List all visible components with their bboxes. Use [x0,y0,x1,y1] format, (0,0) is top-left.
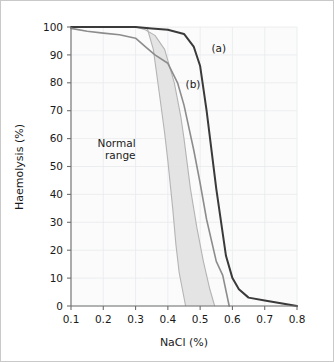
y-tick-label: 60 [50,132,63,144]
series-label-b: (b) [186,78,201,90]
y-tick-label: 40 [50,188,63,200]
y-tick-label: 20 [50,244,63,256]
y-tick-label: 0 [56,300,63,312]
x-tick-label: 0.8 [289,313,306,325]
x-tick-label: 0.4 [160,313,177,325]
y-tick-label: 50 [50,160,63,172]
y-tick-label: 10 [50,272,63,284]
y-tick-label: 80 [50,76,63,88]
x-tick-label: 0.6 [224,313,241,325]
haemolysis-osmotic-fragility-chart: 0102030405060708090100 0.10.20.30.40.50.… [1,1,334,362]
x-tick-label: 0.1 [63,313,80,325]
y-tick-label: 70 [50,104,63,116]
x-axis-tick-labels: 0.10.20.30.40.50.60.70.8 [63,313,306,325]
series-label-a: (a) [211,42,226,54]
y-axis-tick-labels: 0102030405060708090100 [43,21,63,312]
y-tick-label: 90 [50,49,63,61]
y-axis-title: Haemolysis (%) [13,124,26,210]
x-tick-label: 0.7 [256,313,273,325]
x-tick-label: 0.5 [192,313,209,325]
normal-range-label-line1: Normal [98,137,136,149]
figure-frame: 0102030405060708090100 0.10.20.30.40.50.… [0,0,334,362]
x-axis-ticks [71,306,297,310]
x-axis-title: NaCl (%) [160,336,208,349]
y-axis-ticks [67,27,71,306]
x-tick-label: 0.2 [95,313,112,325]
x-tick-label: 0.3 [127,313,144,325]
y-tick-label: 100 [43,21,63,33]
normal-range-label-line2: range [105,149,136,161]
y-tick-label: 30 [50,216,63,228]
